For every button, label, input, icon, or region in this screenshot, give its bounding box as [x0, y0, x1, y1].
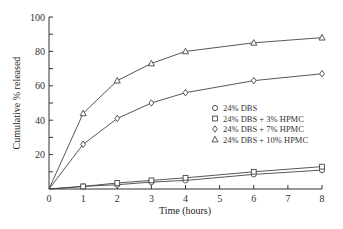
- diamond-marker-icon: [115, 115, 120, 121]
- series-triangle: [49, 34, 325, 189]
- y-tick-label: 40: [35, 115, 45, 126]
- y-tick-label: 20: [35, 149, 45, 160]
- square-marker-icon: [213, 116, 218, 121]
- square-marker-icon: [115, 181, 120, 186]
- square-marker-icon: [81, 184, 86, 189]
- legend: 24% DBS24% DBS + 3% HPMC24% DBS + 7% HPM…: [212, 103, 308, 145]
- diamond-marker-icon: [183, 89, 188, 95]
- triangle-marker-icon: [319, 34, 325, 40]
- legend-label: 24% DBS: [223, 103, 258, 113]
- x-tick-label: 5: [217, 193, 222, 204]
- x-tick-label: 8: [320, 193, 325, 204]
- x-tick-label: 3: [149, 193, 154, 204]
- legend-label: 24% DBS + 7% HPMC: [223, 124, 304, 134]
- triangle-marker-icon: [114, 77, 120, 83]
- origin-label: 0: [47, 193, 52, 204]
- x-tick-label: 4: [183, 193, 188, 204]
- x-axis-title: Time (hours): [159, 205, 211, 217]
- x-tick-label: 7: [285, 193, 290, 204]
- y-tick-label: 60: [35, 80, 45, 91]
- square-marker-icon: [183, 175, 188, 180]
- y-tick-label: 80: [35, 46, 45, 57]
- square-marker-icon: [251, 169, 256, 174]
- x-tick-label: 1: [81, 193, 86, 204]
- circle-marker-icon: [212, 105, 217, 110]
- legend-label: 24% DBS + 10% HPMC: [223, 135, 308, 145]
- legend-item: 24% DBS: [212, 103, 257, 113]
- diamond-marker-icon: [213, 126, 218, 132]
- diamond-marker-icon: [320, 71, 325, 77]
- x-tick-label: 6: [251, 193, 256, 204]
- release-chart: 20406080100012345678 24% DBS24% DBS + 3%…: [0, 0, 343, 229]
- y-tick-label: 100: [30, 12, 45, 23]
- diamond-marker-icon: [251, 77, 256, 83]
- x-tick-label: 2: [115, 193, 120, 204]
- data-series: [49, 34, 325, 189]
- square-marker-icon: [320, 164, 325, 169]
- y-axis-title: Cumulative % released: [11, 57, 22, 150]
- legend-item: 24% DBS + 7% HPMC: [213, 124, 305, 134]
- square-marker-icon: [149, 178, 154, 183]
- series-square: [49, 164, 324, 189]
- legend-item: 24% DBS + 10% HPMC: [212, 135, 308, 145]
- triangle-marker-icon: [212, 136, 218, 142]
- legend-item: 24% DBS + 3% HPMC: [213, 114, 305, 124]
- legend-label: 24% DBS + 3% HPMC: [223, 114, 304, 124]
- diamond-marker-icon: [149, 100, 154, 106]
